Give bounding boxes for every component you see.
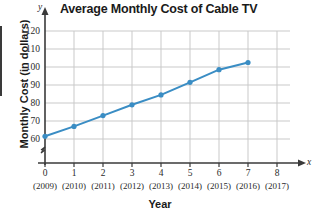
chart-container: Average Monthly Cost of Cable TV Monthly… (0, 0, 320, 218)
data-point (187, 80, 192, 85)
plot-area (0, 0, 320, 218)
data-point (216, 67, 221, 72)
data-point (158, 92, 163, 97)
data-point (71, 124, 76, 129)
data-point (129, 102, 134, 107)
data-point (245, 60, 250, 65)
grid-lines (45, 31, 290, 163)
x-axis (38, 160, 306, 168)
data-point (100, 113, 105, 118)
data-point (42, 134, 47, 139)
